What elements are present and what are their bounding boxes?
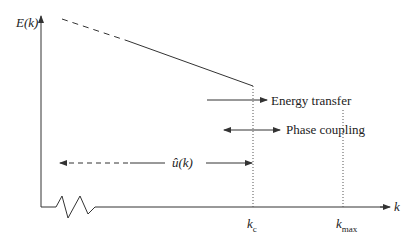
kmax-subscript: max [342,224,358,234]
kc-tick-label: kc [247,216,257,234]
x-axis [41,196,390,218]
y-axis-label: E(k) [16,15,38,31]
kc-subscript: c [253,224,257,234]
spectrum-diagram [0,0,411,242]
energy-transfer-label: Energy transfer [271,93,351,109]
kmax-tick-label: kmax [336,216,357,234]
u-hat-label: û(k) [172,155,193,171]
energy-spectrum-curve [62,19,253,86]
phase-coupling-label: Phase coupling [286,122,365,138]
x-axis-label: k [394,199,400,215]
